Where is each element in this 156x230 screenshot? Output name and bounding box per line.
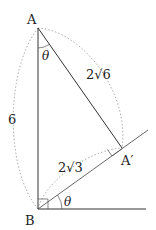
angle-arc-a	[38, 44, 50, 48]
geometry-diagram: A B A′ θ θ 6 2√6 2√3	[0, 0, 156, 230]
label-side-aa-prime: 2√6	[86, 67, 111, 82]
slanted-line	[38, 130, 148, 209]
label-point-b: B	[25, 213, 35, 228]
label-side-ba-prime: 2√3	[58, 160, 83, 175]
segment-aa-prime	[38, 28, 122, 148]
label-side-ab: 6	[8, 112, 16, 127]
label-point-a: A	[26, 12, 37, 27]
label-angle-b: θ	[64, 195, 72, 209]
angle-arc-b	[58, 195, 63, 209]
label-point-a-prime: A′	[120, 153, 133, 168]
label-angle-a: θ	[42, 49, 50, 63]
arc-ab	[13, 28, 38, 209]
